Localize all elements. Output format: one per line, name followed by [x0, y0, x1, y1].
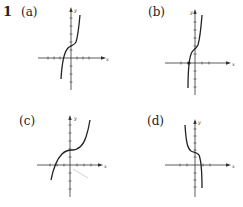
y-axis-label-d: y	[197, 119, 201, 126]
scan-artifact	[73, 169, 88, 178]
graph-c: y x	[37, 115, 107, 197]
x-axis-label-a: x	[106, 56, 109, 62]
y-axis-label-a: y	[73, 7, 77, 14]
graph-b: y x	[165, 9, 235, 95]
x-axis-label-d: x	[232, 163, 235, 169]
x-axis-label-b: x	[232, 61, 235, 67]
x-axis-label-c: x	[104, 163, 107, 169]
y-axis-label-b: y	[189, 9, 193, 16]
graph-a: y x	[38, 7, 109, 90]
y-axis-label-c: y	[73, 115, 77, 122]
graphs-canvas: y x y x	[0, 0, 243, 207]
graph-d: y x	[165, 119, 235, 197]
